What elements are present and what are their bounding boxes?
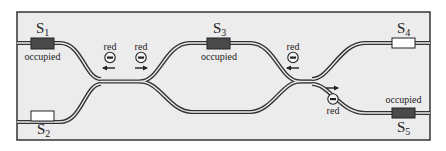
slot-s1-status: occupied bbox=[24, 51, 60, 62]
slot-s3-box[interactable] bbox=[207, 38, 230, 49]
particle-3-label: red bbox=[287, 41, 300, 52]
particle-1-label: red bbox=[104, 41, 117, 52]
slot-s5-status: occupied bbox=[385, 94, 421, 105]
slot-s2-box[interactable] bbox=[31, 111, 54, 121]
slot-s5-box[interactable] bbox=[392, 108, 415, 118]
particle-4-label: red bbox=[327, 105, 340, 116]
track-diagram: S1 occupied S2 S3 occupied S4 occupied S… bbox=[0, 0, 446, 151]
slot-s4-box[interactable] bbox=[392, 38, 415, 48]
slot-s3-status: occupied bbox=[201, 51, 237, 62]
particle-2-label: red bbox=[135, 41, 148, 52]
slot-s1-box[interactable] bbox=[31, 38, 54, 49]
